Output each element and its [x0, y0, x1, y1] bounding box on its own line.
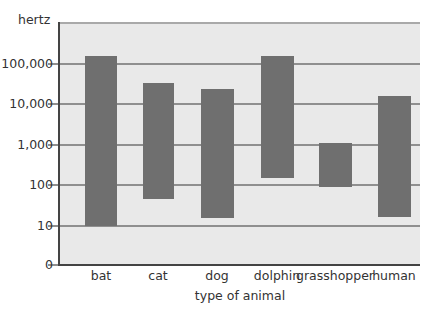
bar-dog: [201, 89, 234, 218]
x-axis-title: type of animal: [0, 288, 430, 303]
ytick-label-10000: 10,000: [9, 96, 53, 111]
xtick-label-human: human: [354, 268, 430, 283]
ytick-label-1000: 1,000: [17, 137, 53, 152]
x-axis: [58, 264, 420, 266]
bar-grasshopper: [319, 143, 352, 187]
ytick-label-100000: 100,000: [1, 56, 53, 71]
bar-bat: [85, 56, 117, 226]
bar-human: [378, 96, 411, 217]
bar-cat: [143, 83, 174, 199]
ytick-label-10: 10: [37, 218, 53, 233]
y-axis: [58, 22, 60, 266]
ytick-label-0: 0: [45, 257, 53, 272]
y-axis-unit-label: hertz: [18, 12, 50, 27]
bar-dolphin: [261, 56, 294, 178]
ytick-label-100: 100: [29, 177, 53, 192]
